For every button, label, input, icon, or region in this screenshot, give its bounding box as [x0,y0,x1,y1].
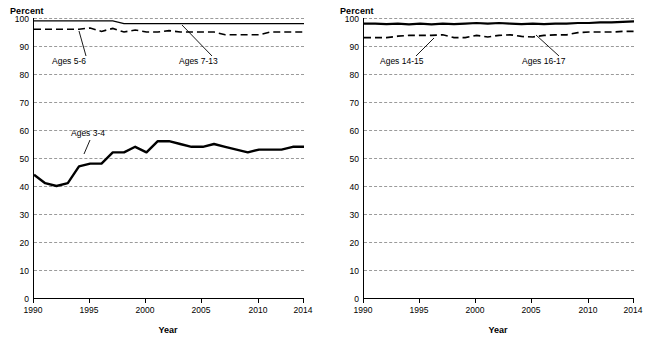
left-annotation-ages-3-4: Ages 3-4 [71,128,105,138]
left-ytick-100: 100 [13,14,29,24]
left-ytick-0: 0 [13,294,29,304]
left-ytick-90: 90 [13,42,29,52]
right-ytick-70: 70 [343,98,359,108]
right-ytick-80: 80 [343,70,359,80]
right-xtick-mark-2010 [588,298,589,303]
left-line-ages-5-6 [34,28,304,35]
right-ytick-30: 30 [343,210,359,220]
left-xtick-1995: 1995 [74,305,104,315]
right-xtick-2000: 2000 [460,305,490,315]
left-ytick-50: 50 [13,154,29,164]
left-xtick-mark-2000 [145,298,146,303]
right-ytick-100: 100 [343,14,359,24]
left-xtick-2000: 2000 [130,305,160,315]
left-annotation-ages-7-13: Ages 7-13 [179,56,218,66]
left-line-ages-3-4 [34,141,304,186]
left-xtick-mark-2005 [201,298,202,303]
right-annotation-ages-16-17: Ages 16-17 [522,56,565,66]
right-xtick-mark-1995 [419,298,420,303]
right-xtick-mark-1990 [363,298,364,303]
right-ytick-90: 90 [343,42,359,52]
right-ytick-50: 50 [343,154,359,164]
right-line-ages-16-17 [364,31,634,37]
right-annotation-ages-14-15: Ages 14-15 [380,56,423,66]
right-x-axis-title: Year [468,325,528,335]
left-xtick-mark-2010 [258,298,259,303]
right-ytick-40: 40 [343,182,359,192]
left-ytick-30: 30 [13,210,29,220]
left-ytick-10: 10 [13,266,29,276]
right-xtick-2010: 2010 [573,305,603,315]
left-annotation-ages-5-6: Ages 5-6 [52,56,86,66]
right-xtick-2014: 2014 [618,305,648,315]
right-chart-panel: Percent 0 10 20 3 [324,0,648,343]
left-line-ages-7-13 [34,21,304,24]
right-ytick-0: 0 [343,294,359,304]
left-ytick-60: 60 [13,126,29,136]
left-x-axis-title: Year [138,325,198,335]
left-xtick-mark-1990 [33,298,34,303]
right-xtick-1995: 1995 [404,305,434,315]
left-xtick-mark-1995 [89,298,90,303]
left-ytick-20: 20 [13,238,29,248]
left-xtick-2005: 2005 [186,305,216,315]
right-xtick-mark-2014 [633,298,634,303]
right-xtick-mark-2000 [475,298,476,303]
right-xtick-1990: 1990 [348,305,378,315]
left-ytick-70: 70 [13,98,29,108]
left-xtick-2014: 2014 [288,305,318,315]
left-xtick-2010: 2010 [243,305,273,315]
left-xtick-1990: 1990 [18,305,48,315]
left-ytick-40: 40 [13,182,29,192]
chart-page: Percent [0,0,648,343]
right-ytick-60: 60 [343,126,359,136]
right-ytick-20: 20 [343,238,359,248]
left-xtick-mark-2014 [303,298,304,303]
right-ytick-10: 10 [343,266,359,276]
left-chart-panel: Percent [0,0,324,343]
left-ytick-80: 80 [13,70,29,80]
right-line-ages-14-15 [364,21,634,24]
right-xtick-2005: 2005 [516,305,546,315]
right-xtick-mark-2005 [531,298,532,303]
